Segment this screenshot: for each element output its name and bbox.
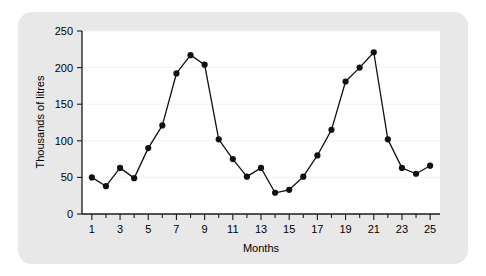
data-point — [300, 174, 306, 180]
x-tick-label: 21 — [368, 223, 380, 235]
x-tick-label: 13 — [255, 223, 267, 235]
y-tick-label: 200 — [55, 62, 73, 74]
data-point — [371, 49, 377, 55]
x-tick-label: 1 — [89, 223, 95, 235]
data-point — [103, 183, 109, 189]
data-point — [89, 174, 95, 180]
data-point — [272, 190, 278, 196]
data-point — [399, 165, 405, 171]
data-point — [314, 152, 320, 158]
data-point — [385, 136, 391, 142]
data-point — [131, 175, 137, 181]
y-tick-label: 100 — [55, 135, 73, 147]
data-point — [159, 122, 165, 128]
y-tick-label: 50 — [61, 171, 73, 183]
x-tick-label: 23 — [396, 223, 408, 235]
y-axis-tick-labels: 050100150200250 — [55, 25, 73, 220]
y-tick-label: 250 — [55, 25, 73, 37]
data-point — [117, 165, 123, 171]
data-point — [342, 78, 348, 84]
x-tick-label: 5 — [145, 223, 151, 235]
x-tick-label: 25 — [424, 223, 436, 235]
y-tick-label: 150 — [55, 98, 73, 110]
line-chart: 050100150200250 135791113151719212325 Mo… — [0, 0, 486, 276]
y-tick-label: 0 — [67, 208, 73, 220]
data-point — [286, 187, 292, 193]
series-line-volume — [92, 52, 430, 193]
y-axis-ticks — [77, 31, 82, 214]
x-axis-tick-labels: 135791113151719212325 — [89, 223, 436, 235]
x-tick-label: 17 — [311, 223, 323, 235]
x-tick-label: 11 — [227, 223, 238, 235]
x-axis-title: Months — [243, 242, 280, 254]
data-series-group — [89, 49, 433, 196]
y-axis: 050100150200250 — [55, 25, 82, 220]
x-tick-label: 3 — [117, 223, 123, 235]
gridlines-group — [82, 31, 440, 177]
x-tick-label: 9 — [202, 223, 208, 235]
x-axis: 135791113151719212325 — [82, 214, 440, 235]
data-point — [230, 156, 236, 162]
data-point — [187, 52, 193, 58]
data-point — [202, 62, 208, 68]
data-point — [258, 165, 264, 171]
data-point — [173, 70, 179, 76]
data-point — [244, 174, 250, 180]
x-tick-label: 7 — [173, 223, 179, 235]
data-point — [145, 145, 151, 151]
series-markers-volume — [89, 49, 433, 196]
data-point — [216, 136, 222, 142]
x-axis-ticks — [92, 214, 430, 220]
data-point — [427, 163, 433, 169]
data-point — [357, 65, 363, 71]
x-tick-label: 19 — [339, 223, 351, 235]
data-point — [413, 171, 419, 177]
y-axis-title: Thousands of litres — [34, 75, 46, 168]
x-tick-label: 15 — [283, 223, 295, 235]
chart-figure: 050100150200250 135791113151719212325 Mo… — [0, 0, 486, 276]
data-point — [328, 127, 334, 133]
